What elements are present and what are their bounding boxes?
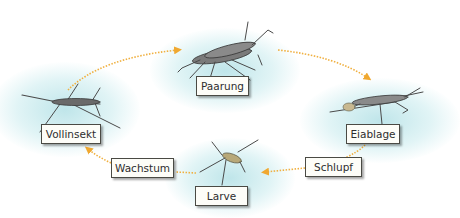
arrow-wachstum-to-vollinsekt <box>88 149 111 163</box>
stage-label-vollinsekt: Vollinsekt <box>41 124 101 144</box>
transition-label-schlupf: Schlupf <box>305 157 362 177</box>
stage-label-larve: Larve <box>195 186 248 206</box>
insect-egg-laying-icon <box>330 88 423 124</box>
arrow-schlupf-to-larve <box>265 168 305 172</box>
stage-label-paarung: Paarung <box>196 76 249 96</box>
arrow-vollinsekt-to-paarung <box>68 50 178 90</box>
stage-label-eiablage: Eiablage <box>346 124 400 144</box>
arrow-paarung-to-eiablage <box>278 50 368 78</box>
arrow-larve-to-wachstum <box>176 172 196 173</box>
insect-larva-icon <box>200 140 258 185</box>
transition-label-wachstum: Wachstum <box>111 158 174 178</box>
